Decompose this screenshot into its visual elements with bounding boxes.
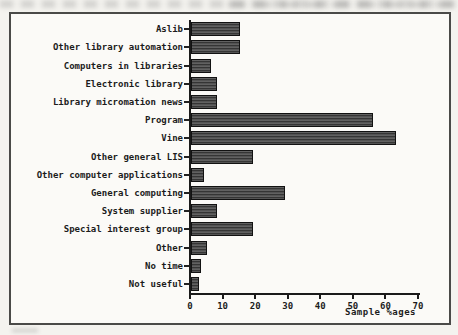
category-label: System supplier — [13, 206, 183, 216]
category-label: General computing — [13, 188, 183, 198]
x-tick-label: 20 — [250, 301, 261, 311]
bar-zone — [189, 93, 447, 111]
x-tick — [189, 295, 191, 299]
bar — [191, 259, 201, 273]
category-tick — [184, 228, 189, 230]
bar-row: No time — [13, 257, 447, 275]
category-tick — [184, 283, 189, 285]
category-tick — [184, 192, 189, 194]
bar — [191, 95, 217, 109]
bar-row: General computing — [13, 184, 447, 202]
category-tick — [184, 119, 189, 121]
bar-zone — [189, 147, 447, 165]
bar — [191, 150, 253, 164]
bar-row: Aslib — [13, 20, 447, 38]
bar-zone — [189, 129, 447, 147]
bar-row: Library micromation news — [13, 93, 447, 111]
bar-zone — [189, 38, 447, 56]
x-tick-label: 10 — [217, 301, 228, 311]
bar — [191, 113, 373, 127]
x-tick — [222, 295, 224, 299]
category-tick — [184, 46, 189, 48]
bar-zone — [189, 166, 447, 184]
bar-zone — [189, 220, 447, 238]
category-label: Aslib — [13, 24, 183, 34]
category-label: No time — [13, 261, 183, 271]
bar — [191, 77, 217, 91]
bar-row: Electronic library — [13, 75, 447, 93]
x-tick — [254, 295, 256, 299]
bar-zone — [189, 111, 447, 129]
bar — [191, 131, 396, 145]
scan-smudge-bottom — [12, 329, 38, 332]
bar-row: Program — [13, 111, 447, 129]
category-tick — [184, 65, 189, 67]
x-tick — [417, 295, 419, 299]
category-label: Not useful — [13, 279, 183, 289]
category-tick — [184, 247, 189, 249]
category-tick — [184, 101, 189, 103]
bar — [191, 168, 204, 182]
chart-frame: AslibOther library automationComputers i… — [9, 12, 451, 325]
category-tick — [184, 83, 189, 85]
bar-row: Computers in libraries — [13, 56, 447, 74]
x-tick-label: 40 — [315, 301, 326, 311]
category-tick — [184, 210, 189, 212]
bar-row: Other general LIS — [13, 147, 447, 165]
bar-rows: AslibOther library automationComputers i… — [13, 20, 447, 293]
x-tick — [384, 295, 386, 299]
scan-bleed-top — [0, 0, 458, 8]
bar-zone — [189, 184, 447, 202]
category-label: Other library automation — [13, 42, 183, 52]
bar-zone — [189, 202, 447, 220]
bar — [191, 241, 207, 255]
bar-zone — [189, 75, 447, 93]
bar — [191, 277, 199, 291]
category-label: Other general LIS — [13, 152, 183, 162]
scanned-chart-page: AslibOther library automationComputers i… — [0, 0, 458, 335]
category-tick — [184, 137, 189, 139]
bar — [191, 40, 240, 54]
bar-zone — [189, 56, 447, 74]
x-tick — [319, 295, 321, 299]
x-tick-label: 30 — [282, 301, 293, 311]
bar-zone — [189, 20, 447, 38]
bar-row: Other library automation — [13, 38, 447, 56]
category-label: Program — [13, 115, 183, 125]
bar-zone — [189, 238, 447, 256]
bar-row: System supplier — [13, 202, 447, 220]
x-axis-title: Sample %ages — [345, 307, 416, 317]
category-label: Computers in libraries — [13, 61, 183, 71]
category-label: Other computer applications — [13, 170, 183, 180]
category-label: Library micromation news — [13, 97, 183, 107]
x-tick — [352, 295, 354, 299]
category-tick — [184, 265, 189, 267]
bar — [191, 186, 285, 200]
category-tick — [184, 156, 189, 158]
bar — [191, 22, 240, 36]
bar-zone — [189, 257, 447, 275]
bar-row: Other computer applications — [13, 166, 447, 184]
x-tick-label: 0 — [187, 301, 192, 311]
bar-row: Not useful — [13, 275, 447, 293]
category-label: Vine — [13, 133, 183, 143]
bar-row: Special interest group — [13, 220, 447, 238]
category-tick — [184, 174, 189, 176]
bar — [191, 222, 253, 236]
bar — [191, 204, 217, 218]
scan-bleed-top-right — [228, 1, 458, 8]
x-tick — [287, 295, 289, 299]
category-label: Electronic library — [13, 79, 183, 89]
category-label: Special interest group — [13, 224, 183, 234]
bar-zone — [189, 275, 447, 293]
category-tick — [184, 28, 189, 30]
category-label: Other — [13, 243, 183, 253]
bar-row: Other — [13, 238, 447, 256]
bar-row: Vine — [13, 129, 447, 147]
bar — [191, 59, 211, 73]
